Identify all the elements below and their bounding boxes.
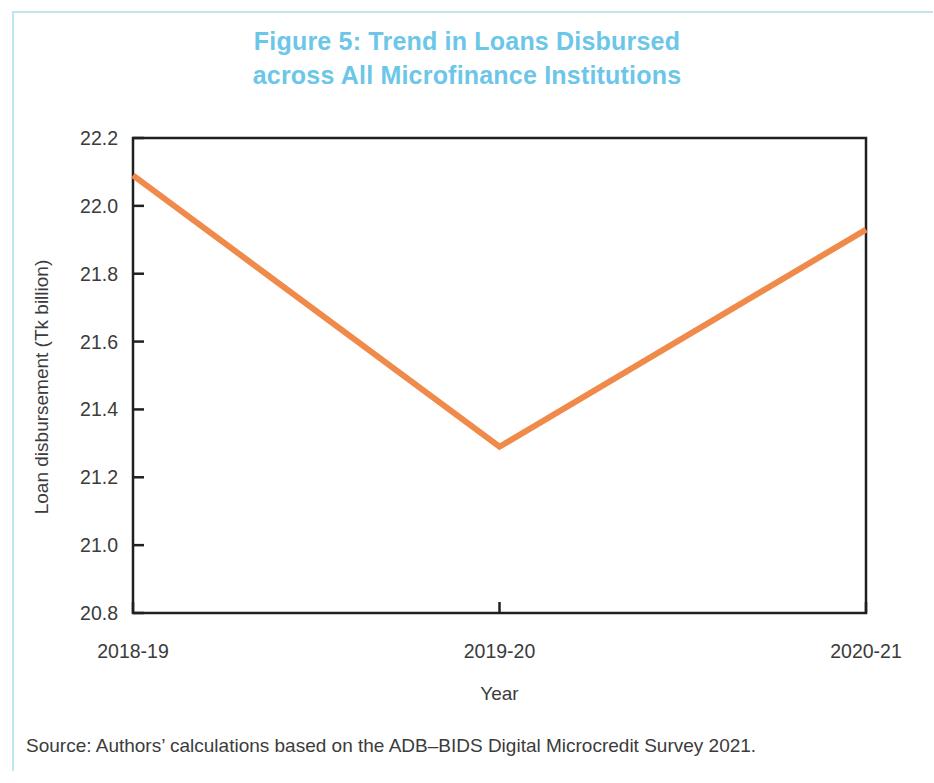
axis-frame <box>133 138 866 613</box>
x-axis-ticks <box>133 602 866 613</box>
source-note: Source: Authors’ calculations based on t… <box>26 735 756 757</box>
line-chart: Loan disbursement (Tk billion) 20.821.02… <box>0 0 934 783</box>
data-series-line <box>133 175 866 446</box>
y-axis-ticks <box>133 138 144 613</box>
plot-area <box>0 0 934 783</box>
